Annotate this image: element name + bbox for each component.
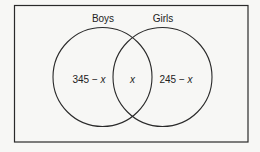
venn-diagram: Boys Girls 345 − x x 245 − x	[0, 0, 260, 152]
boys-only-region-label: 345 − x	[72, 74, 106, 85]
girls-set-label: Girls	[153, 13, 174, 24]
boys-set-label: Boys	[92, 13, 114, 24]
girls-only-region-label: 245 − x	[159, 74, 193, 85]
intersection-region-label: x	[129, 74, 136, 85]
